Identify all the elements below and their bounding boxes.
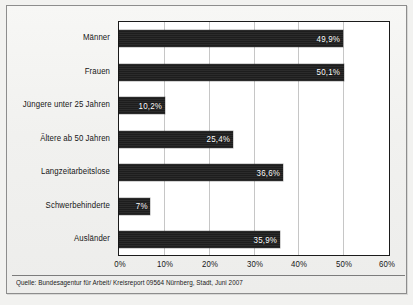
category-label-langzeitarbeitslose: Langzeitarbeitslose (10, 166, 110, 176)
bar-maenner[interactable]: 49,9% (119, 30, 343, 47)
bar-schwerbehinderte[interactable]: 7% (119, 198, 150, 215)
bar-aeltere-ab-50[interactable]: 25,4% (119, 131, 233, 148)
bar-juengere-unter-25[interactable]: 10,2% (119, 97, 165, 114)
gridline-30 (254, 22, 255, 255)
bar-value-label: 49,9% (316, 34, 340, 44)
chart-figure: Männer Frauen Jüngere unter 25 Jahren Äl… (0, 0, 413, 305)
x-axis: 0% 10% 20% 30% 40% 50% 60% (118, 256, 390, 272)
source-note: Quelle: Bundesagentur für Arbeit/ Kreisr… (16, 279, 243, 286)
bar-value-label: 7% (135, 201, 147, 211)
category-label-frauen: Frauen (10, 66, 110, 76)
category-label-schwerbehinderte: Schwerbehinderte (10, 200, 110, 210)
category-axis-labels: Männer Frauen Jüngere unter 25 Jahren Äl… (6, 21, 114, 256)
category-label-juengere-unter-25: Jüngere unter 25 Jahren (10, 99, 110, 109)
category-label-auslaender: Ausländer (10, 233, 110, 243)
xtick-30: 30% (247, 259, 263, 269)
xtick-60: 60% (379, 259, 395, 269)
bar-value-label: 36,6% (256, 168, 280, 178)
bar-value-label: 50,1% (317, 67, 341, 77)
gridline-40 (298, 22, 299, 255)
gridline-50 (343, 22, 344, 255)
bar-value-label: 35,9% (253, 235, 277, 245)
xtick-40: 40% (291, 259, 307, 269)
xtick-10: 10% (157, 259, 173, 269)
footer-divider (12, 275, 405, 276)
xtick-20: 20% (202, 259, 218, 269)
bar-auslaender[interactable]: 35,9% (119, 231, 280, 248)
xtick-0: 0% (114, 259, 125, 269)
xtick-50: 50% (336, 259, 352, 269)
chart-area: Männer Frauen Jüngere unter 25 Jahren Äl… (6, 5, 407, 294)
category-label-aeltere-ab-50: Ältere ab 50 Jahren (10, 133, 110, 143)
bar-value-label: 25,4% (206, 134, 230, 144)
bar-frauen[interactable]: 50,1% (119, 64, 344, 81)
bar-langzeitarbeitslose[interactable]: 36,6% (119, 164, 283, 181)
plot-area: 49,9% 50,1% 10,2% 25,4% 36,6 (118, 21, 390, 256)
category-label-maenner: Männer (10, 32, 110, 42)
bar-value-label: 10,2% (138, 101, 162, 111)
